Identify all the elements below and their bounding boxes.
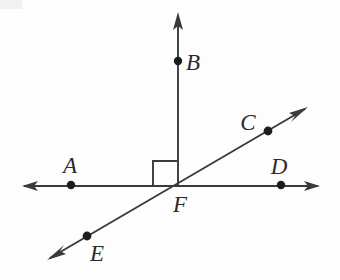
point-B-label: B — [186, 50, 200, 75]
point-D-dot — [277, 181, 285, 189]
point-C-label: C — [240, 110, 256, 135]
point-B-dot — [174, 57, 182, 65]
point-F-label: F — [172, 192, 188, 217]
point-E-label: E — [89, 241, 104, 266]
line-EC-arrow-upper-right — [289, 107, 308, 122]
point-E-dot — [83, 232, 92, 241]
line-EC-arrow-lower-left — [47, 245, 66, 260]
right-angle-icon — [153, 161, 177, 186]
line-AD — [22, 181, 320, 191]
geometry-figure: A B C D E F — [0, 0, 340, 280]
geometry-canvas: A B C D E F — [0, 0, 340, 280]
point-A-dot — [67, 181, 75, 189]
point-C-dot — [264, 127, 273, 136]
point-A-label: A — [61, 153, 78, 178]
ray-FB — [173, 12, 183, 186]
point-D-label: D — [270, 154, 288, 179]
